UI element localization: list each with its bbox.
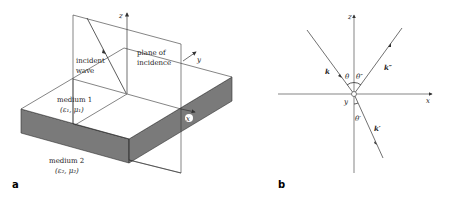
k-transmitted-label: k′ — [374, 124, 381, 133]
medium1-label: medium 1 — [57, 96, 92, 104]
panel-a-label: a — [12, 179, 19, 190]
medium2-params: (ε₂, μ₂) — [55, 167, 79, 175]
z-label: z — [118, 12, 123, 20]
y-label: y — [196, 56, 202, 64]
theta-reflected-label: θ″ — [356, 73, 363, 81]
medium2-label: medium 2 — [49, 157, 84, 165]
k-ray — [307, 30, 354, 94]
y-axis — [183, 52, 196, 61]
wave-label: wave — [76, 67, 94, 75]
panel-b-label: b — [278, 179, 285, 190]
k-reflected-ray — [354, 28, 402, 94]
k-label: k — [325, 67, 330, 76]
panel-b: z x y k k″ k′ θ θ″ θ′ b — [278, 13, 432, 190]
incidence-label: incidence — [137, 59, 171, 67]
x-label: x — [186, 115, 190, 123]
b-z-label: z — [347, 13, 352, 21]
k-reflected-label: k″ — [384, 63, 393, 72]
b-x-label: x — [426, 97, 430, 105]
theta-transmitted-label: θ′ — [355, 115, 361, 123]
incident-label: incident — [76, 57, 105, 65]
b-y-label: y — [343, 98, 349, 106]
medium1-params: (ε₁, μ₁) — [60, 106, 84, 114]
y-axis-out-of-page — [352, 92, 357, 97]
plane-of-label: plane of — [137, 49, 167, 57]
figure: z y x incident wave plane of incidence m… — [0, 0, 455, 198]
panel-a: z y x incident wave plane of incidence m… — [12, 12, 232, 190]
theta-label: θ — [345, 73, 350, 81]
